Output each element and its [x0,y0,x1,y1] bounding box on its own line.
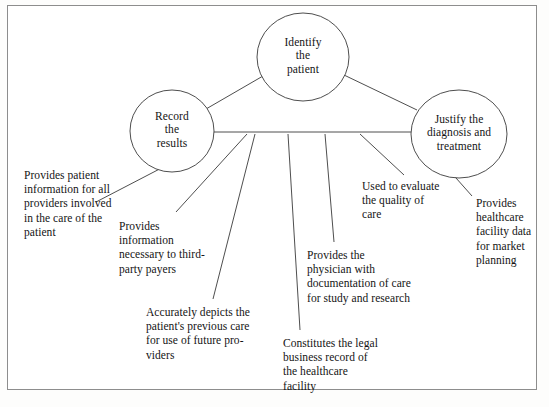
callout-provider-information: Provides patient information for all pro… [24,168,120,239]
node-circle-justify[interactable] [411,90,507,178]
callout-physician-documentation: Provides the physician with documentatio… [307,248,411,305]
link-identify-to-justify [344,75,417,110]
link-record-to-identify [206,76,263,109]
callout-market-planning: Provides healthcare facility data for ma… [476,196,538,267]
diagram-canvas: IdentifythepatientRecordtheresultsJustif… [0,0,549,407]
leader-legal-business-record [288,134,300,330]
leader-physician-documentation [325,134,334,242]
leader-previous-care [213,134,255,299]
callout-third-party-payers: Provides information necessary to third-… [119,219,205,276]
callout-previous-care: Accurately depicts the patient's previou… [146,305,254,362]
leader-quality-of-care [360,134,404,175]
callout-quality-of-care: Used to evaluate the quality of care [362,179,440,222]
node-circle-identify[interactable] [257,13,349,101]
callout-legal-business-record: Constitutes the legal business record of… [283,336,379,393]
node-circle-record[interactable] [130,90,214,172]
